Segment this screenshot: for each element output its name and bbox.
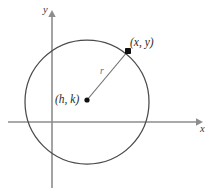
- circle-diagram-figure: y x (x, y) (h, k) r: [0, 0, 216, 194]
- radius-label: r: [100, 67, 104, 77]
- radius-segment: [87, 51, 128, 100]
- center-hk-label: (h, k): [55, 94, 79, 106]
- y-axis-arrowhead: [48, 10, 55, 17]
- circle-point-marker: [125, 48, 131, 54]
- x-axis-label: x: [200, 124, 205, 135]
- y-axis-label: y: [43, 5, 48, 16]
- center-point-marker: [84, 97, 89, 102]
- figure-canvas: [0, 0, 216, 194]
- point-xy-label: (x, y): [130, 37, 154, 49]
